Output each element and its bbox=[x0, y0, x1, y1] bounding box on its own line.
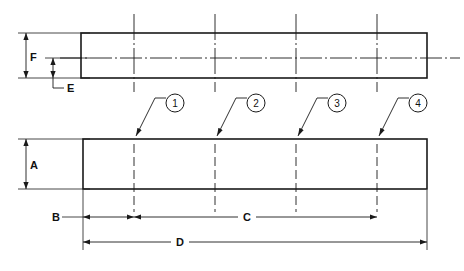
dimension-e: E bbox=[45, 58, 90, 94]
dimension-f-label: F bbox=[30, 51, 37, 63]
dimension-c-label: C bbox=[243, 211, 251, 223]
drawing-canvas: 1 2 3 4 F E bbox=[0, 0, 464, 271]
dimension-f: F bbox=[18, 33, 90, 78]
dimension-d-label: D bbox=[176, 236, 184, 248]
balloon-callout-4[interactable]: 4 bbox=[379, 94, 427, 136]
balloon-1-leader bbox=[136, 98, 166, 136]
balloon-callout-1[interactable]: 1 bbox=[136, 94, 184, 136]
balloon-4-label: 4 bbox=[415, 98, 421, 109]
balloon-1-label: 1 bbox=[172, 98, 178, 109]
front-view-outline bbox=[83, 139, 427, 189]
horizontal-dimension-extension-lines bbox=[83, 190, 427, 250]
dimension-e-label: E bbox=[67, 82, 74, 94]
dimension-b-label: B bbox=[52, 211, 60, 223]
drawing-sheet: 1 2 3 4 F E bbox=[0, 0, 464, 271]
balloon-2-leader bbox=[217, 98, 247, 136]
top-view-centerlines bbox=[134, 14, 377, 92]
balloon-3-leader bbox=[298, 98, 328, 136]
top-view-outline bbox=[81, 33, 427, 78]
dimension-a: A bbox=[18, 139, 90, 189]
dimension-d: D bbox=[83, 236, 427, 248]
balloon-callout-2[interactable]: 2 bbox=[217, 94, 265, 136]
balloon-3-label: 3 bbox=[334, 98, 340, 109]
dimension-b: B bbox=[52, 211, 134, 223]
dimension-a-label: A bbox=[30, 159, 38, 171]
balloon-callout-3[interactable]: 3 bbox=[298, 94, 346, 136]
front-view-centerlines bbox=[134, 144, 377, 212]
dimension-c: C bbox=[134, 211, 377, 223]
balloon-4-leader bbox=[379, 98, 409, 136]
top-view-group bbox=[60, 33, 460, 78]
balloon-2-label: 2 bbox=[253, 98, 259, 109]
front-view-group bbox=[83, 139, 427, 189]
dimension-e-leader bbox=[53, 78, 64, 88]
